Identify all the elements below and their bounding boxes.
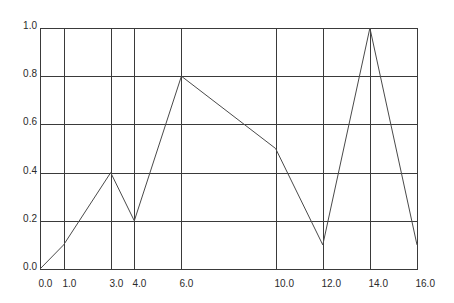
y-tick-label: 0.0	[23, 261, 37, 272]
y-axis-tick-labels: 0.00.20.40.60.81.0	[23, 20, 37, 272]
y-tick-label: 1.0	[23, 20, 37, 31]
vertical-gridlines	[41, 28, 418, 269]
y-tick-label: 0.6	[23, 116, 37, 127]
plot-frame	[41, 29, 418, 270]
x-tick-label: 6.0	[180, 278, 194, 289]
x-axis-tick-labels: 0.01.03.04.06.010.012.014.016.0	[39, 278, 436, 289]
x-tick-label: 10.0	[275, 278, 295, 289]
line-chart: 0.00.20.40.60.81.0 0.01.03.04.06.010.012…	[0, 0, 454, 303]
y-tick-label: 0.8	[23, 68, 37, 79]
x-tick-label: 1.0	[63, 278, 77, 289]
x-tick-label: 12.0	[322, 278, 342, 289]
horizontal-gridlines	[40, 29, 417, 270]
y-tick-label: 0.4	[23, 165, 37, 176]
x-tick-label: 14.0	[369, 278, 389, 289]
x-tick-label: 0.0	[39, 278, 53, 289]
x-tick-label: 4.0	[133, 278, 147, 289]
x-tick-label: 16.0	[416, 278, 436, 289]
data-series-line	[40, 28, 417, 269]
y-tick-label: 0.2	[23, 213, 37, 224]
x-tick-label: 3.0	[110, 278, 124, 289]
